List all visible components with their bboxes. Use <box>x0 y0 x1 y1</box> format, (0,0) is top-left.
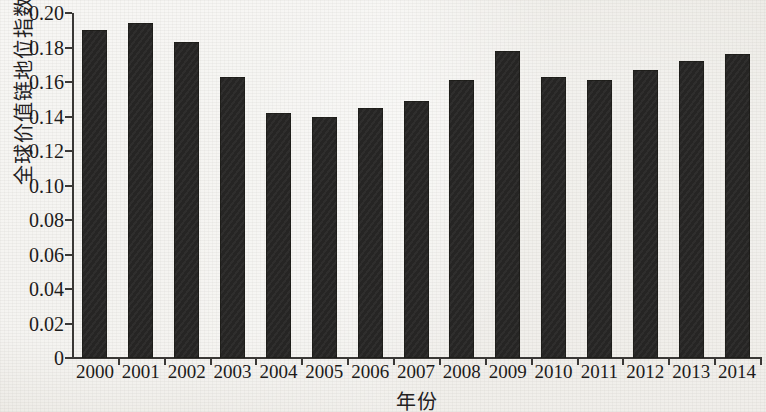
y-axis-tick-mark <box>65 323 72 325</box>
y-axis-tick-label: 0.10 <box>6 176 64 196</box>
y-axis-tick-label: 0.20 <box>6 3 64 23</box>
x-axis-tick-label: 2004 <box>259 362 297 383</box>
y-axis-tick-mark <box>65 357 72 359</box>
x-axis-tick-label: 2006 <box>351 362 389 383</box>
y-axis-tick-mark <box>65 81 72 83</box>
x-axis-tick-label: 2014 <box>718 362 756 383</box>
y-axis-tick-label: 0 <box>6 348 64 368</box>
y-axis-tick-mark <box>65 185 72 187</box>
x-axis-tick-label: 2000 <box>76 362 114 383</box>
y-axis-tick-label: 0.02 <box>6 314 64 334</box>
bar <box>633 70 658 358</box>
bar <box>587 80 612 358</box>
y-axis-tick-mark <box>65 288 72 290</box>
x-axis-tick-label: 2007 <box>397 362 435 383</box>
x-axis-title: 年份 <box>72 386 762 412</box>
x-axis-tick-label: 2009 <box>489 362 527 383</box>
y-axis-tick-label: 0.06 <box>6 245 64 265</box>
bar <box>449 80 474 358</box>
x-axis-tick-label: 2008 <box>443 362 481 383</box>
bar <box>358 108 383 358</box>
bar <box>220 77 245 358</box>
x-axis-tick-labels: 2000200120022003200420052006200720082009… <box>72 362 762 388</box>
bar <box>541 77 566 358</box>
bar <box>404 101 429 358</box>
bar <box>725 54 750 358</box>
bar <box>495 51 520 358</box>
x-axis-tick-label: 2001 <box>122 362 160 383</box>
bar <box>679 61 704 358</box>
bar <box>266 113 291 358</box>
y-axis-tick-mark <box>65 12 72 14</box>
y-axis-tick-labels: 00.020.040.060.080.100.120.140.160.180.2… <box>6 0 64 412</box>
y-axis-tick-label: 0.18 <box>6 38 64 58</box>
y-axis-tick-mark <box>65 116 72 118</box>
y-axis-tick-mark <box>65 254 72 256</box>
bar <box>312 117 337 359</box>
x-axis-tick-label: 2010 <box>535 362 573 383</box>
plot-area <box>72 13 760 358</box>
x-axis-tick-label: 2012 <box>626 362 664 383</box>
x-axis-tick-label: 2005 <box>305 362 343 383</box>
x-axis-tick-label: 2002 <box>168 362 206 383</box>
y-axis-line <box>72 13 74 359</box>
x-axis-tick-label: 2003 <box>214 362 252 383</box>
chart-figure: 全球价值链地位指数 00.020.040.060.080.100.120.140… <box>0 0 766 412</box>
x-axis-tick-label: 2011 <box>581 362 618 383</box>
y-axis-tick-mark <box>65 47 72 49</box>
bar <box>128 23 153 358</box>
y-axis-tick-label: 0.12 <box>6 141 64 161</box>
y-axis-tick-label: 0.08 <box>6 210 64 230</box>
y-axis-tick-mark <box>65 150 72 152</box>
y-axis-tick-label: 0.14 <box>6 107 64 127</box>
y-axis-tick-label: 0.16 <box>6 72 64 92</box>
y-axis-tick-label: 0.04 <box>6 279 64 299</box>
bar <box>82 30 107 358</box>
bar <box>174 42 199 358</box>
x-axis-tick-label: 2013 <box>672 362 710 383</box>
y-axis-tick-mark <box>65 219 72 221</box>
